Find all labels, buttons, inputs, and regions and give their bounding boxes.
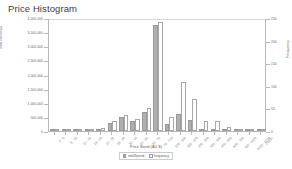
bar-group [141,19,152,131]
y-axis-right-tick-label: 50 [271,107,275,111]
bar-group [175,19,186,131]
bar-group [95,19,106,131]
bar-group [72,19,83,131]
bar-group [198,19,209,131]
legend-swatch [149,154,152,157]
bar-group [129,19,140,131]
legend-entry[interactable]: frequency [149,154,169,158]
legend-swatch [123,154,126,157]
chart-legend: totalSpendfrequency [119,152,173,160]
bar-frequency [238,129,243,131]
x-axis-title: Price Band (AU $) [0,145,292,149]
x-axis-tick-mark [191,132,192,135]
x-axis-tick-mark [168,132,169,135]
x-axis-tick-mark [260,132,261,135]
x-axis-tick-mark [237,132,238,135]
x-axis-tick-mark [123,132,124,135]
bar-frequency [250,129,255,131]
y-axis-left-tick-label: 3,500,000 [27,31,43,35]
bar-frequency [124,115,129,131]
bar-group [233,19,244,131]
y-axis-left-tick-label: 2,500,000 [27,59,43,63]
legend-label: frequency [154,154,169,158]
legend-entry[interactable]: totalSpend [123,154,144,158]
y-axis-left-tick-label: 1,000,000 [27,102,43,106]
x-axis-tick-mark [54,132,55,135]
x-axis-tick-mark [100,132,101,135]
x-axis-tick-mark [226,132,227,135]
chart-title: Price Histogram [8,3,77,14]
bar-group [106,19,117,131]
plot-area [48,19,266,132]
price-histogram-figure: Price Histogram Total Revenue Frequency … [0,0,292,169]
x-axis-tick-mark [157,132,158,135]
bar-frequency [169,117,174,131]
bar-group [118,19,129,131]
x-axis-tick-mark [65,132,66,135]
bar-group [221,19,232,131]
x-axis-tick-mark [111,132,112,135]
bar-group [244,19,255,131]
bar-group [83,19,94,131]
x-axis-tick-mark [88,132,89,135]
bar-frequency [227,127,232,131]
x-axis-tick-label: 0 - 5 [58,136,66,144]
y-axis-left-tick-label: 2,000,000 [27,74,43,78]
x-axis-tick-mark [249,132,250,135]
bar-group [60,19,71,131]
y-axis-left-tick-label: 4,000,000 [27,17,43,21]
y-axis-left-tick-label: 3,000,000 [27,45,43,49]
x-axis-tick-mark [146,132,147,135]
x-axis-tick-mark [77,132,78,135]
bar-frequency [158,22,163,131]
x-axis-tick-label: 5 - 10 [70,136,79,145]
x-axis-tick-mark [180,132,181,135]
bar-group [187,19,198,131]
bar-group [152,19,163,131]
bar-frequency [147,108,152,131]
y-axis-right-title: Frequency [286,40,290,58]
bar-frequency [101,128,106,131]
bar-group [210,19,221,131]
bars-layer [49,19,265,131]
y-axis-right-tick-mark [266,132,270,133]
bar-frequency [135,119,140,131]
bar-frequency [261,129,266,131]
x-axis-tick-mark [214,132,215,135]
bar-frequency [192,99,197,131]
y-axis-left-tick-label: 1,500,000 [27,88,43,92]
y-axis-left-tick-mark [44,132,48,133]
y-axis-right-tick-label: 250 [271,17,277,21]
bar-frequency [55,129,60,131]
y-axis-right-tick-label: 100 [271,85,277,89]
bar-frequency [181,82,186,131]
bar-frequency [66,129,71,131]
bar-group [164,19,175,131]
bar-frequency [78,129,83,131]
legend-label: totalSpend [128,154,144,158]
x-axis-tick-mark [203,132,204,135]
y-axis-left-tick-label: 500,000 [30,116,43,120]
bar-group [49,19,60,131]
y-axis-left-title: Total Revenue [0,26,3,50]
x-axis-tick-mark [134,132,135,135]
bar-group [256,19,267,131]
y-axis-left-tick-label: 0 [41,130,43,134]
bar-frequency [215,121,220,131]
y-axis-right-tick-label: 0 [271,130,273,134]
bar-frequency [89,129,94,131]
bar-frequency [204,121,209,131]
bar-frequency [112,121,117,131]
y-axis-right-tick-label: 150 [271,62,277,66]
y-axis-right-tick-label: 200 [271,40,277,44]
